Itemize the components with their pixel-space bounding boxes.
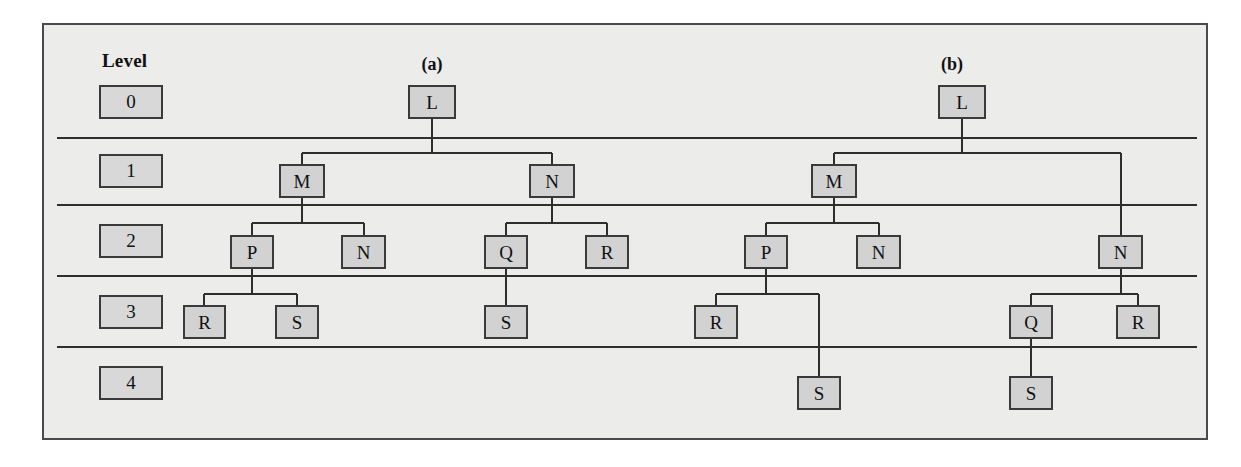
node-label: S	[1026, 384, 1037, 403]
level-column-header: Level	[102, 50, 147, 72]
tree-b-node-s-under-p: S	[797, 376, 841, 410]
node-label: S	[814, 384, 825, 403]
level-box-3: 3	[99, 295, 163, 329]
level-divider-0	[57, 137, 1197, 139]
tree-a-node-r-level3: R	[183, 305, 226, 339]
level-box-3-label: 3	[126, 301, 136, 323]
tree-b-node-s-under-q: S	[1009, 376, 1053, 410]
node-label: R	[198, 313, 211, 332]
node-label: R	[1132, 313, 1145, 332]
tree-b-node-n-under-l: N	[1098, 235, 1143, 269]
node-label: P	[247, 243, 258, 262]
node-label: M	[826, 172, 843, 191]
node-label: L	[956, 93, 968, 112]
tree-a-node-s-under-q: S	[484, 305, 528, 339]
tree-b-node-m: M	[811, 164, 857, 198]
level-divider-2	[57, 275, 1197, 277]
panel-b-label: (b)	[912, 54, 992, 75]
node-label: N	[357, 243, 371, 262]
tree-b-node-l: L	[938, 85, 986, 119]
node-label: N	[872, 243, 886, 262]
tree-b-node-q: Q	[1009, 305, 1053, 339]
level-divider-1	[57, 204, 1197, 206]
level-divider-3	[57, 346, 1197, 348]
tree-b-node-n-under-m: N	[856, 235, 901, 269]
level-box-1-label: 1	[126, 160, 136, 182]
node-label: N	[1114, 243, 1128, 262]
node-label: M	[294, 172, 311, 191]
node-label: S	[501, 313, 512, 332]
tree-a-node-p: P	[230, 235, 274, 269]
node-label: S	[292, 313, 303, 332]
tree-a-node-q: Q	[484, 235, 528, 269]
node-label: L	[426, 93, 438, 112]
tree-b-node-r-under-p: R	[694, 305, 738, 339]
node-label: Q	[1024, 313, 1038, 332]
level-box-2: 2	[99, 224, 163, 258]
tree-b-node-r-under-n: R	[1116, 305, 1160, 339]
level-box-4-label: 4	[126, 372, 136, 394]
level-box-0: 0	[99, 85, 163, 119]
node-label: N	[545, 172, 559, 191]
tree-a-node-n-level2: N	[341, 235, 386, 269]
figure-frame: Level (a) (b) 0 1 2 3 4 L M N P	[42, 23, 1208, 440]
node-label: R	[601, 243, 614, 262]
level-box-4: 4	[99, 366, 163, 400]
figure-page: Level (a) (b) 0 1 2 3 4 L M N P	[0, 0, 1241, 467]
tree-a-node-s-under-p: S	[275, 305, 319, 339]
level-box-0-label: 0	[126, 91, 136, 113]
panel-a-label: (a)	[392, 54, 472, 75]
tree-a-node-n-level1: N	[529, 164, 575, 198]
level-box-2-label: 2	[126, 230, 136, 252]
tree-b-node-p: P	[744, 235, 788, 269]
tree-a-node-m: M	[279, 164, 325, 198]
level-box-1: 1	[99, 154, 163, 188]
node-label: Q	[499, 243, 513, 262]
tree-a-node-r-level2: R	[585, 235, 629, 269]
node-label: P	[761, 243, 772, 262]
tree-a-node-l: L	[408, 85, 456, 119]
node-label: R	[710, 313, 723, 332]
